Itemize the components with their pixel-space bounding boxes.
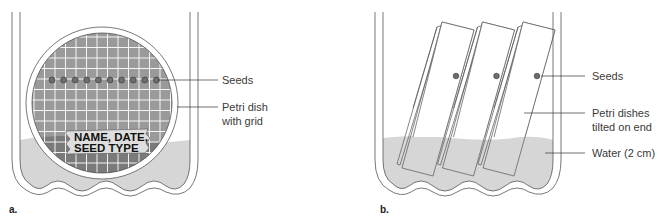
seed [119,77,125,83]
diagram-canvas: NAME, DATE, SEED TYPE Seeds Petri dish w… [0,0,662,224]
dish-label-tag: NAME, DATE, SEED TYPE [66,129,150,154]
seed [49,77,55,83]
callout-petri-dishes-2: tilted on end [592,121,652,133]
callout-seeds-b: Seeds [592,70,624,82]
panel-label-a: a. [9,204,18,215]
seed [534,73,540,79]
panel-b: Seeds Petri dishes tilted on end Water (… [375,12,655,215]
panel-a: NAME, DATE, SEED TYPE Seeds Petri dish w… [9,12,268,215]
callout-petri-dishes-1: Petri dishes [592,107,650,119]
seed [453,73,459,79]
seed [494,73,500,79]
seed [130,77,136,83]
callout-seeds-a: Seeds [222,74,254,86]
seed [84,77,90,83]
callout-petri-dish-2: with grid [221,115,263,127]
seed [72,77,78,83]
callout-water: Water (2 cm) [592,147,655,159]
tag-line-2: SEED TYPE [74,142,139,154]
seed [107,77,113,83]
seed [61,77,67,83]
panel-label-b: b. [380,204,389,215]
callout-petri-dish-1: Petri dish [222,101,268,113]
seed [95,77,101,83]
seed [142,77,148,83]
